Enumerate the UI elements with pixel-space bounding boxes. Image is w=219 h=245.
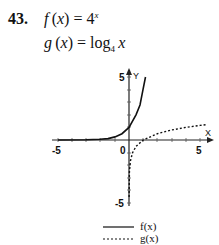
legend-f-label: f(x) [140,220,157,232]
x-tick-0: 0 [120,145,126,156]
legend-g-label: g(x) [140,232,158,244]
x-tick-5: 5 [196,145,202,156]
f-curve [58,77,146,140]
y-tick-5: 5 [119,72,125,83]
y-axis-arrow-icon [126,68,132,75]
graph: -5 0 5 5 -5 Y X [0,0,219,245]
g-curve [129,125,207,198]
y-axis-label: Y [133,71,139,81]
x-tick-neg5: -5 [52,145,61,156]
y-tick-neg5: -5 [115,198,124,209]
x-axis-label: X [205,128,211,138]
